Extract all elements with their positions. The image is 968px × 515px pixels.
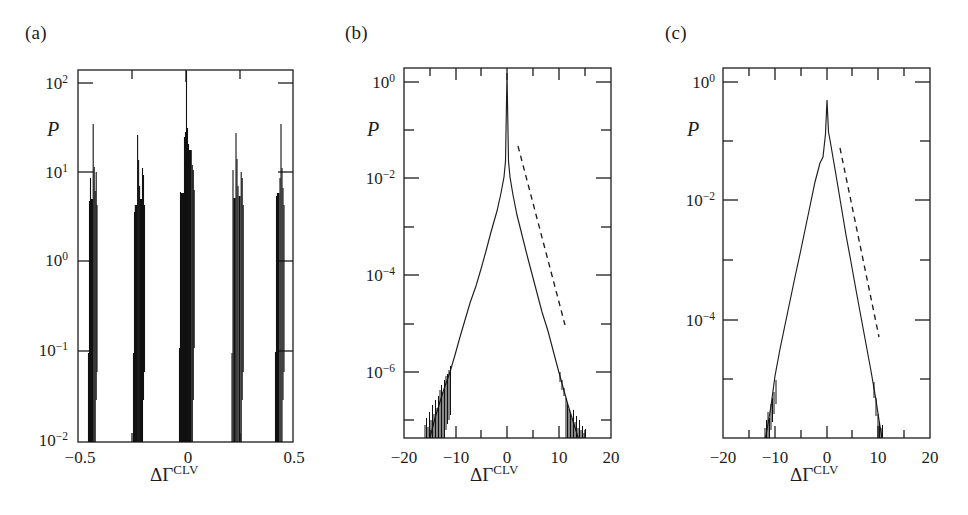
panel-c-plot: 100 10−2 10−4 −20 −10 0 10 20: [640, 0, 963, 515]
panel-b-curves: [424, 73, 586, 458]
svg-text:−10: −10: [443, 448, 470, 467]
svg-text:10−2: 10−2: [39, 430, 68, 450]
svg-text:102: 102: [45, 73, 68, 93]
panel-c-y-ticklabels: 100 10−2 10−4: [686, 72, 716, 330]
svg-text:10−4: 10−4: [686, 310, 715, 330]
svg-text:0.5: 0.5: [283, 448, 304, 467]
panel-b-tail-noise: [425, 366, 586, 438]
panel-b-x-ticklabels: −20 −10 0 10 20: [391, 448, 620, 467]
panel-c-tail-noise: [765, 380, 883, 438]
svg-text:101: 101: [45, 162, 68, 182]
figure-panel-group: (a) P ΔΓCLV 102 101 100 10−1 10−2 −0.5 0…: [0, 0, 968, 515]
panel-b: (b) P ΔΓCLV 100 10−2 10−4 10−6 −20 −10 0…: [320, 0, 643, 515]
panel-a-x-ticklabels: −0.5 0 0.5: [65, 448, 305, 467]
panel-c-curves: [763, 100, 884, 452]
svg-text:10: 10: [551, 448, 568, 467]
panel-a-histogram: [89, 70, 285, 442]
panel-c-y-ticks: [723, 82, 930, 379]
svg-text:100: 100: [45, 250, 68, 270]
svg-text:10−1: 10−1: [39, 340, 68, 360]
svg-text:0: 0: [184, 448, 193, 467]
svg-text:−10: −10: [762, 448, 789, 467]
panel-a-y-ticklabels: 102 101 100 10−1 10−2: [39, 73, 69, 450]
svg-text:0: 0: [503, 448, 512, 467]
svg-text:10−2: 10−2: [366, 168, 395, 188]
svg-text:10−4: 10−4: [366, 265, 395, 285]
panel-c: (c) P ΔΓCLV 100 10−2 10−4 −20 −10 0 10 2…: [640, 0, 963, 515]
svg-text:10−6: 10−6: [366, 362, 395, 382]
panel-a-plot: 102 101 100 10−1 10−2 −0.5 0 0.5: [0, 0, 323, 515]
svg-text:−20: −20: [391, 448, 418, 467]
panel-b-y-ticklabels: 100 10−2 10−4 10−6: [366, 72, 396, 382]
svg-text:20: 20: [603, 448, 620, 467]
panel-a: (a) P ΔΓCLV 102 101 100 10−1 10−2 −0.5 0…: [0, 0, 323, 515]
svg-text:10: 10: [870, 448, 887, 467]
svg-text:100: 100: [692, 72, 715, 92]
svg-text:−0.5: −0.5: [65, 448, 96, 467]
svg-text:−20: −20: [710, 448, 737, 467]
svg-text:20: 20: [922, 448, 939, 467]
svg-text:10−2: 10−2: [686, 190, 715, 210]
panel-b-plot: 100 10−2 10−4 10−6 −20 −10 0 10 20: [320, 0, 643, 515]
panel-b-distribution-curve: [424, 73, 585, 458]
svg-text:0: 0: [823, 448, 832, 467]
panel-c-x-ticklabels: −20 −10 0 10 20: [710, 448, 939, 467]
panel-b-exponential-fit: [518, 146, 565, 325]
svg-text:100: 100: [372, 72, 395, 92]
